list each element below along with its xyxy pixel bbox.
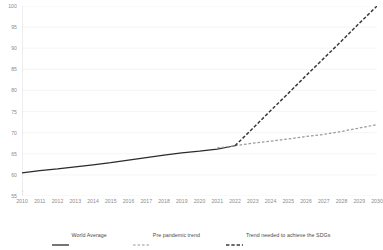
y-tick-label: 70 — [11, 130, 17, 136]
x-tick-label: 2018 — [158, 198, 170, 204]
x-axis: 2010201120122013201420152016201720182019… — [22, 198, 377, 210]
y-tick-label: 95 — [11, 24, 17, 30]
series-line-pre-pandemic-trend — [217, 125, 377, 148]
y-tick-label: 100 — [8, 3, 17, 9]
y-tick-label: 65 — [11, 151, 17, 157]
x-tick-label: 2021 — [211, 198, 223, 204]
x-tick-label: 2022 — [229, 198, 241, 204]
x-tick-label: 2014 — [87, 198, 99, 204]
legend-swatch-icon — [52, 233, 69, 237]
legend-label: Trend needed to achieve the SDGs — [246, 232, 330, 238]
y-tick-label: 90 — [11, 45, 17, 51]
legend-item[interactable]: Trend needed to achieve the SDGs — [226, 232, 330, 238]
x-tick-label: 2015 — [105, 198, 117, 204]
legend-label: World Average — [72, 232, 107, 238]
chart-plot-svg — [22, 6, 377, 196]
x-tick-label: 2025 — [282, 198, 294, 204]
y-tick-label: 85 — [11, 66, 17, 72]
chart-legend: World AveragePre pandemic trendTrend nee… — [0, 228, 382, 242]
legend-swatch-icon — [133, 233, 150, 237]
plot-area — [22, 6, 377, 196]
y-tick-label: 75 — [11, 109, 17, 115]
x-tick-label: 2019 — [176, 198, 188, 204]
x-tick-label: 2016 — [123, 198, 135, 204]
x-tick-label: 2028 — [336, 198, 348, 204]
x-tick-label: 2024 — [265, 198, 277, 204]
y-tick-label: 80 — [11, 87, 17, 93]
legend-label: Pre pandemic trend — [153, 232, 200, 238]
legend-item[interactable]: Pre pandemic trend — [133, 232, 200, 238]
x-tick-label: 2011 — [34, 198, 45, 204]
x-tick-label: 2020 — [194, 198, 206, 204]
x-tick-label: 2010 — [16, 198, 28, 204]
x-tick-label: 2026 — [300, 198, 312, 204]
legend-swatch-icon — [226, 233, 243, 237]
legend-item[interactable]: World Average — [52, 232, 107, 238]
x-tick-label: 2012 — [52, 198, 64, 204]
x-tick-label: 2029 — [353, 198, 365, 204]
y-tick-label: 60 — [11, 172, 17, 178]
x-tick-label: 2027 — [318, 198, 330, 204]
x-tick-label: 2023 — [247, 198, 259, 204]
series-line-world-average — [22, 146, 235, 173]
x-tick-label: 2030 — [371, 198, 383, 204]
y-axis: 556065707580859095100 — [0, 0, 20, 196]
x-tick-label: 2013 — [69, 198, 81, 204]
x-tick-label: 2017 — [140, 198, 152, 204]
